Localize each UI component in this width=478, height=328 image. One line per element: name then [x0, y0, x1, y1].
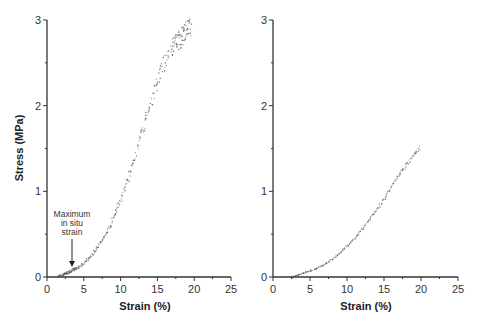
- data-point: [358, 232, 359, 233]
- data-point: [405, 167, 406, 168]
- x-tick-label: 20: [415, 283, 427, 295]
- data-point: [185, 39, 186, 40]
- data-point: [189, 23, 190, 24]
- data-point: [128, 171, 129, 172]
- data-point: [175, 40, 176, 41]
- left-x-ticks: 0510152025: [44, 277, 237, 295]
- data-point: [188, 33, 189, 34]
- data-point: [144, 128, 145, 129]
- data-point: [402, 168, 403, 169]
- data-point: [67, 271, 68, 272]
- data-point: [355, 237, 356, 238]
- data-point: [321, 265, 322, 266]
- data-point: [400, 170, 401, 171]
- data-point: [145, 118, 146, 119]
- data-point: [399, 175, 400, 176]
- data-point: [356, 235, 357, 236]
- data-point: [94, 252, 95, 253]
- data-point: [344, 248, 345, 249]
- data-point: [395, 180, 396, 181]
- data-point: [185, 22, 186, 23]
- data-point: [379, 206, 380, 207]
- data-point: [181, 44, 182, 45]
- data-point: [187, 28, 188, 29]
- data-point: [168, 50, 169, 51]
- data-point: [111, 218, 112, 219]
- data-point: [416, 151, 417, 152]
- data-point: [396, 178, 397, 179]
- data-point: [136, 156, 137, 157]
- x-tick-label: 25: [452, 283, 464, 295]
- data-point: [354, 238, 355, 239]
- right-data-points: [291, 146, 420, 279]
- data-point: [374, 213, 375, 214]
- data-point: [73, 268, 74, 269]
- data-point: [145, 115, 146, 116]
- data-point: [113, 217, 114, 218]
- data-point: [355, 238, 356, 239]
- data-point: [175, 34, 176, 35]
- annotation-max-in-situ-strain: Maximum in situ strain: [54, 209, 91, 267]
- data-point: [137, 144, 138, 145]
- data-point: [381, 203, 382, 204]
- data-point: [409, 159, 410, 160]
- data-point: [141, 132, 142, 133]
- data-point: [418, 148, 419, 149]
- data-point: [160, 65, 161, 66]
- data-point: [407, 162, 408, 163]
- data-point: [86, 258, 87, 259]
- data-point: [76, 269, 77, 270]
- data-point: [156, 79, 157, 80]
- data-point: [387, 193, 388, 194]
- data-point: [178, 49, 179, 50]
- data-point: [159, 69, 160, 70]
- data-point: [185, 37, 186, 38]
- data-point: [153, 93, 154, 94]
- data-point: [140, 130, 141, 131]
- data-point: [349, 244, 350, 245]
- data-point: [337, 254, 338, 255]
- right-y-ticks: 0123: [261, 14, 273, 283]
- data-point: [166, 65, 167, 66]
- data-point: [75, 267, 76, 268]
- data-point: [156, 90, 157, 91]
- data-point: [92, 254, 93, 255]
- data-point: [165, 62, 166, 63]
- data-point: [174, 41, 175, 42]
- data-point: [317, 268, 318, 269]
- data-point: [141, 129, 142, 130]
- data-point: [181, 27, 182, 28]
- data-point: [118, 202, 119, 203]
- data-point: [303, 272, 304, 273]
- data-point: [323, 265, 324, 266]
- data-point: [121, 199, 122, 200]
- data-point: [360, 231, 361, 232]
- data-point: [59, 277, 60, 278]
- data-point: [86, 261, 87, 262]
- data-point: [410, 158, 411, 159]
- data-point: [176, 37, 177, 38]
- data-point: [88, 257, 89, 258]
- data-point: [146, 115, 147, 116]
- data-point: [397, 176, 398, 177]
- right-plot: 0123 0510152025 Strain (%): [261, 14, 464, 312]
- y-tick-label: 3: [261, 14, 267, 26]
- data-point: [112, 222, 113, 223]
- x-tick-label: 10: [114, 283, 126, 295]
- data-point: [150, 103, 151, 104]
- data-point: [65, 273, 66, 274]
- data-point: [365, 223, 366, 224]
- data-point: [171, 49, 172, 50]
- data-point: [177, 44, 178, 45]
- data-point: [92, 253, 93, 254]
- y-tick-label: 3: [35, 14, 41, 26]
- data-point: [149, 108, 150, 109]
- data-point: [159, 81, 160, 82]
- data-point: [83, 264, 84, 265]
- data-point: [190, 35, 191, 36]
- data-point: [183, 40, 184, 41]
- data-point: [180, 47, 181, 48]
- data-point: [311, 270, 312, 271]
- data-point: [148, 112, 149, 113]
- data-point: [76, 267, 77, 268]
